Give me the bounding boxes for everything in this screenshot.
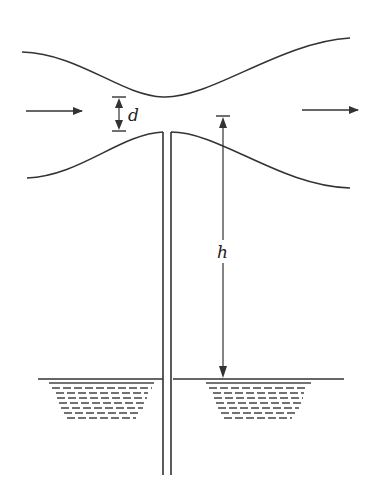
throat-gap-dimension: d xyxy=(112,97,139,131)
venturi-diagram: d h xyxy=(0,0,374,495)
water-body-right xyxy=(206,383,311,418)
height-label: h xyxy=(217,242,228,262)
height-dimension: h xyxy=(216,116,230,378)
upper-channel-wall xyxy=(22,38,350,97)
water-body-left xyxy=(49,383,154,418)
throat-gap-label: d xyxy=(128,105,139,125)
lower-channel-wall-left xyxy=(27,132,163,178)
lower-channel-wall-right xyxy=(171,132,350,188)
